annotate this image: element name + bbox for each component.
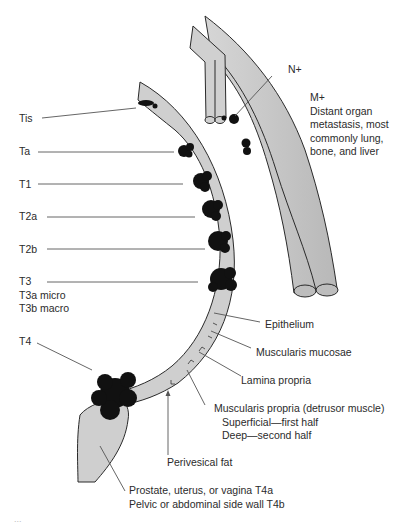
label-deep: Deep—second half [214, 429, 384, 443]
label-muscularis-mucosae: Muscularis mucosae [256, 346, 352, 359]
tumor-t3 [208, 267, 237, 292]
label-n-plus: N+ [288, 63, 302, 76]
leader-lamina [199, 352, 241, 376]
metastasis-line-3: commonly lung, [310, 132, 389, 146]
label-t3-group: T3 T3a micro T3b macro [19, 275, 69, 316]
label-muscularis-propria: Muscularis propria (detrusor muscle) [214, 402, 384, 416]
metastasis-line-4: bone, and liver [310, 145, 389, 159]
caption-fragment: ... [14, 514, 22, 524]
label-t1: T1 [19, 178, 31, 191]
tumor-ta [178, 143, 194, 158]
label-t2a: T2a [19, 210, 37, 223]
label-t4a: Prostate, uterus, or vagina T4a [129, 484, 285, 498]
vessel-end-2 [316, 284, 338, 296]
t4-sites-block: Prostate, uterus, or vagina T4a Pelvic o… [129, 484, 285, 511]
nodal-deposit-1 [229, 114, 239, 124]
vessel-small-end-1 [205, 117, 215, 124]
vessel-end-1 [294, 285, 316, 297]
metastasis-line-1: Distant organ [310, 105, 389, 119]
arrow-perivesical-icon [166, 390, 171, 396]
nodal-deposit-2 [242, 139, 251, 148]
label-lamina-propria: Lamina propria [241, 374, 311, 387]
nodal-deposit-3 [243, 147, 251, 155]
label-t4: T4 [19, 335, 31, 348]
leader-musc-mucosae [211, 331, 251, 348]
label-t3b: T3b macro [19, 302, 69, 316]
label-ta: Ta [19, 145, 30, 158]
label-t3a: T3a micro [19, 289, 69, 303]
bladder-staging-diagram [0, 0, 410, 526]
tumor-t2b [208, 231, 231, 253]
leader-musc-propria [187, 370, 205, 405]
label-t4b: Pelvic or abdominal side wall T4b [129, 498, 285, 512]
label-t3: T3 [19, 275, 69, 289]
label-epithelium: Epithelium [265, 318, 314, 331]
label-perivesical-fat: Perivesical fat [167, 456, 232, 469]
muscularis-propria-block: Muscularis propria (detrusor muscle) Sup… [214, 402, 384, 443]
label-superficial: Superficial—first half [214, 416, 384, 430]
label-t2b: T2b [19, 243, 37, 256]
arrowheads [166, 390, 171, 396]
metastasis-line-2: metastasis, most [310, 118, 389, 132]
metastasis-block: M+ Distant organ metastasis, most common… [310, 91, 389, 159]
label-m-plus: M+ [310, 91, 389, 105]
tumor-t2a [202, 200, 223, 221]
nodal-deposit-small [222, 116, 227, 121]
label-tis: Tis [19, 112, 33, 125]
leader-tis [42, 108, 136, 118]
leader-t4 [37, 343, 92, 370]
